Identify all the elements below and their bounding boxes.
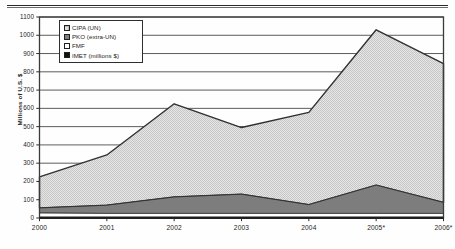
legend-label-pko: PKO (extra-UN): [72, 33, 116, 40]
x-tick-label: 2006*: [421, 224, 455, 231]
figure-container: Millions of U.S. $ 110010009008007006005…: [0, 0, 455, 249]
x-tick-label: 2005*: [353, 224, 399, 231]
legend-label-cipa: CIPA (UN): [72, 24, 101, 31]
y-tick-label: 1100: [8, 13, 34, 20]
y-tick-label: 700: [8, 86, 34, 93]
x-tick-label: 2004: [286, 224, 332, 231]
legend-swatch-fmf-icon: [64, 43, 70, 49]
legend-item-pko: PKO (extra-UN): [64, 32, 140, 41]
y-tick-label: 400: [8, 141, 34, 148]
legend-item-cipa: CIPA (UN): [64, 23, 140, 32]
y-tick-label: 1000: [8, 31, 34, 38]
legend-swatch-cipa-icon: [64, 25, 70, 31]
y-tick-label: 100: [8, 196, 34, 203]
legend-swatch-pko-icon: [64, 34, 70, 40]
y-tick-label: 600: [8, 104, 34, 111]
y-tick-label: 800: [8, 68, 34, 75]
y-tick-label: 200: [8, 177, 34, 184]
legend-item-imet: IMET (millions $): [64, 51, 140, 60]
y-tick-label: 900: [8, 50, 34, 57]
legend-item-fmf: FMF: [64, 41, 140, 50]
x-tick-label: 2003: [219, 224, 265, 231]
legend-swatch-imet-icon: [64, 52, 70, 58]
x-tick-label: 2001: [84, 224, 130, 231]
y-tick-label: 500: [8, 123, 34, 130]
x-tick-label: 2002: [151, 224, 197, 231]
y-tick-label: 300: [8, 159, 34, 166]
y-tick-label: 0: [8, 214, 34, 221]
legend-label-imet: IMET (millions $): [72, 52, 119, 59]
legend-label-fmf: FMF: [72, 42, 85, 49]
x-tick-label: 2000: [17, 224, 63, 231]
chart-legend: CIPA (UN) PKO (extra-UN) FMF IMET (milli…: [59, 20, 143, 64]
